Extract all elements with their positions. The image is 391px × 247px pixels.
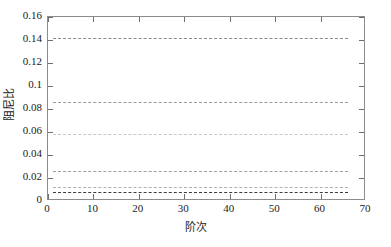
x-tick-label: 50 — [259, 202, 289, 214]
x-tick-top — [93, 17, 94, 22]
y-tick-label: 0.14 — [0, 33, 42, 44]
y-tick-label: 0.12 — [0, 56, 42, 67]
y-tick — [48, 178, 53, 179]
chart-figure: 00.020.040.060.080.10.120.140.16 阻尼比 010… — [0, 0, 391, 247]
x-tick-label: 70 — [350, 202, 380, 214]
y-tick — [48, 86, 53, 87]
x-tick — [48, 194, 49, 199]
x-tick-label: 40 — [214, 202, 244, 214]
y-tick-label: 0.04 — [0, 148, 42, 159]
y-tick-right — [359, 178, 364, 179]
x-tick — [275, 194, 276, 199]
x-tick-top — [321, 17, 322, 22]
y-tick — [48, 63, 53, 64]
y-axis-ticks — [48, 17, 364, 199]
y-axis-title: 阻尼比 — [0, 74, 16, 134]
y-tick — [48, 155, 53, 156]
y-tick-right — [359, 40, 364, 41]
x-tick — [230, 194, 231, 199]
y-tick-right — [359, 63, 364, 64]
y-tick — [48, 109, 53, 110]
x-tick-label: 0 — [32, 202, 62, 214]
x-tick-label: 30 — [168, 202, 198, 214]
y-tick-right — [359, 132, 364, 133]
x-tick-top — [48, 17, 49, 22]
y-tick — [48, 40, 53, 41]
y-tick-right — [359, 109, 364, 110]
x-tick — [139, 194, 140, 199]
x-tick — [321, 194, 322, 199]
y-tick-right — [359, 155, 364, 156]
x-tick-label: 60 — [305, 202, 335, 214]
x-tick-top — [184, 17, 185, 22]
x-tick-top — [275, 17, 276, 22]
x-tick-label: 10 — [77, 202, 107, 214]
x-tick-top — [139, 17, 140, 22]
y-tick — [48, 132, 53, 133]
y-tick-label: 0.16 — [0, 10, 42, 21]
y-tick-right — [359, 86, 364, 87]
x-tick-top — [230, 17, 231, 22]
y-tick-right — [359, 17, 364, 18]
x-tick-label: 20 — [123, 202, 153, 214]
x-axis-title: 阶次 — [0, 218, 391, 234]
y-tick-label: 0.02 — [0, 171, 42, 182]
x-tick — [184, 194, 185, 199]
plot-area — [47, 16, 365, 200]
x-tick — [93, 194, 94, 199]
